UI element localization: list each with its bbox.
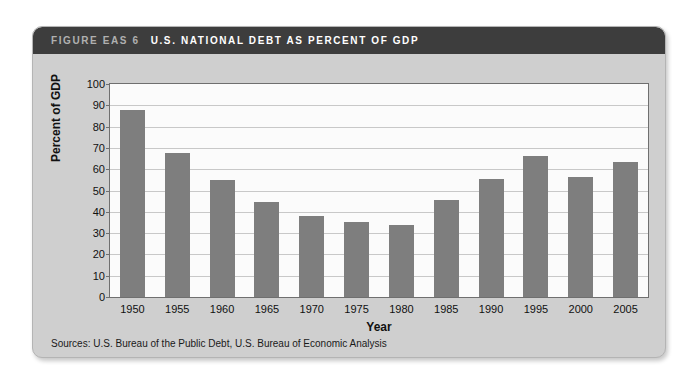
y-tick-label: 40 [93,206,105,218]
y-tick-label: 0 [99,291,105,303]
y-tick-label: 30 [93,227,105,239]
bar [479,179,504,297]
x-tick-label: 1975 [344,303,368,315]
y-tick-label: 100 [87,78,105,90]
bar [254,202,279,297]
source-note: Sources: U.S. Bureau of the Public Debt,… [51,338,387,349]
y-tick-label: 60 [93,163,105,175]
bar [120,110,145,297]
x-tick-label: 1965 [255,303,279,315]
y-tick-label: 10 [93,270,105,282]
bar [434,200,459,297]
x-tick-label: 1990 [479,303,503,315]
bar [523,156,548,297]
figure-title-bar: FIGURE EAS 6 U.S. NATIONAL DEBT AS PERCE… [33,27,665,54]
x-tick-label: 2005 [613,303,637,315]
x-tick-label: 1960 [210,303,234,315]
figure-title-text: U.S. NATIONAL DEBT AS PERCENT OF GDP [151,35,420,46]
x-axis-label: Year [109,320,649,334]
chart-area: Percent of GDP 0102030405060708090100 19… [33,54,665,331]
y-tick-mark [106,297,110,298]
x-tick-label: 1995 [524,303,548,315]
plot-frame: 0102030405060708090100 19501955196019651… [109,83,649,298]
x-tick-label: 1980 [389,303,413,315]
bar [568,177,593,297]
x-tick-label: 1985 [434,303,458,315]
x-tick-label: 1950 [120,303,144,315]
bar [613,162,638,297]
bar [389,225,414,297]
figure-card: FIGURE EAS 6 U.S. NATIONAL DEBT AS PERCE… [32,26,666,358]
bar [299,216,324,297]
bar [210,180,235,297]
figure-number-label: FIGURE EAS 6 [51,35,140,46]
bar [344,222,369,297]
x-tick-label: 2000 [569,303,593,315]
x-tick-label: 1955 [165,303,189,315]
bar [165,153,190,297]
x-tick-label: 1970 [300,303,324,315]
y-tick-label: 50 [93,185,105,197]
y-tick-label: 80 [93,121,105,133]
y-tick-label: 90 [93,99,105,111]
y-tick-label: 70 [93,142,105,154]
y-tick-label: 20 [93,248,105,260]
bar-series [110,84,648,297]
y-axis-label: Percent of GDP [49,74,63,162]
